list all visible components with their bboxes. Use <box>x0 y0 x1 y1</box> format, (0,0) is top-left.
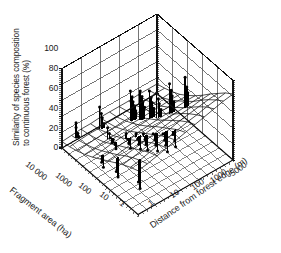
z-tick-100: 100 <box>36 43 58 53</box>
y-axis-tick <box>147 210 148 212</box>
y-axis-tick <box>203 177 204 179</box>
z-tick-60: 60 <box>36 83 58 93</box>
surface-mesh-line-u <box>110 112 186 132</box>
x-axis-tick <box>88 172 89 174</box>
observation-marker <box>140 95 143 98</box>
observation-marker <box>132 100 135 103</box>
observation-marker <box>166 150 169 153</box>
x-axis-tick <box>126 205 127 207</box>
x-axis-tick <box>75 160 76 162</box>
x-axis-tick <box>116 196 117 198</box>
wall-left-horizontal-gridline <box>62 30 157 85</box>
z-axis-title-line2: to continuous forest (%) <box>22 28 32 146</box>
observation-marker <box>134 109 137 112</box>
observation-marker <box>139 89 142 92</box>
y-axis-tick <box>164 200 165 202</box>
observation-marker <box>143 106 146 109</box>
x-axis-tick <box>82 166 83 168</box>
observation-marker <box>156 149 159 152</box>
y-axis-tick <box>181 190 182 192</box>
wall-right-horizontal-gridline <box>157 30 233 97</box>
observation-marker <box>98 106 101 109</box>
x-axis-tick <box>133 211 134 213</box>
x-axis-tick <box>85 169 86 171</box>
x-axis-tick <box>130 208 131 210</box>
observation-marker <box>76 132 79 135</box>
observation-marker <box>168 82 171 85</box>
x-axis-tick <box>137 215 138 217</box>
x-axis-tick <box>68 154 69 156</box>
x-axis-tick <box>95 178 96 180</box>
y-axis-tick <box>138 215 139 217</box>
y-axis-tick <box>160 202 161 204</box>
x-axis-tick <box>106 187 107 189</box>
top-edge-left <box>62 14 157 69</box>
observation-marker <box>170 89 173 92</box>
observation-marker <box>159 108 162 111</box>
observation-marker <box>135 132 138 135</box>
wall-right-horizontal-gridline <box>157 62 233 129</box>
z-tick-40: 40 <box>36 103 58 113</box>
x-axis-tick <box>64 151 65 153</box>
observation-marker <box>157 97 160 100</box>
figure-3d-surface-plot: Similarity of species composition to con… <box>0 0 281 253</box>
observation-marker <box>151 101 154 104</box>
observation-marker <box>129 89 132 92</box>
y-axis-tick <box>186 187 187 189</box>
z-axis-title: Similarity of species composition to con… <box>12 28 31 146</box>
observation-marker <box>106 126 109 129</box>
z-tick-0: 0 <box>36 142 58 152</box>
surface-mesh-line-v <box>130 93 225 167</box>
top-edge-right <box>157 14 233 81</box>
observation-marker <box>174 145 177 148</box>
x-axis-tick <box>102 184 103 186</box>
x-axis-tick <box>113 193 114 195</box>
observation-marker <box>139 148 142 151</box>
observation-marker <box>186 91 189 94</box>
observation-marker <box>158 102 161 105</box>
wall-right-horizontal-gridline <box>157 78 233 145</box>
observation-marker <box>184 76 187 79</box>
observation-marker <box>148 90 151 93</box>
x-axis-tick <box>78 163 79 165</box>
y-axis-tick <box>142 212 143 214</box>
observation-marker <box>102 166 105 169</box>
x-axis-tick <box>92 175 93 177</box>
observation-marker <box>185 85 188 88</box>
observation-marker <box>112 138 115 141</box>
observation-marker <box>152 107 155 110</box>
observation-marker <box>171 95 174 98</box>
y-axis-tick <box>168 197 169 199</box>
observation-marker <box>108 132 111 135</box>
observation-marker <box>75 126 78 129</box>
x-axis-tick <box>71 157 72 159</box>
observation-marker <box>125 132 128 135</box>
observation-marker <box>129 147 132 150</box>
observation-marker <box>146 149 149 152</box>
observation-marker <box>100 112 103 115</box>
observation-marker <box>142 132 145 135</box>
observation-marker <box>114 147 117 150</box>
observation-marker <box>117 176 120 179</box>
observation-marker <box>101 116 104 119</box>
x-axis-tick <box>99 181 100 183</box>
observation-marker <box>139 187 142 190</box>
observation-marker <box>75 121 78 124</box>
z-tick-20: 20 <box>36 123 58 133</box>
observation-marker <box>172 100 175 103</box>
observation-marker <box>131 95 134 98</box>
z-tick-80: 80 <box>36 63 58 73</box>
